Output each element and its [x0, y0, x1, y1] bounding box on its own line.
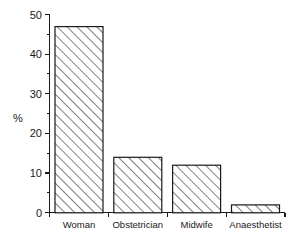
- y-tick-label-50: 50: [30, 9, 42, 21]
- x-tick-label-midwife: Midwife: [180, 219, 212, 230]
- bar-anaesthetist: [232, 205, 280, 213]
- y-axis-title: %: [13, 112, 23, 124]
- y-tick-label-10: 10: [30, 167, 42, 179]
- bar-obstetrician: [114, 157, 162, 213]
- x-tick-label-woman: Woman: [63, 219, 96, 230]
- x-tick-label-obstetrician: Obstetrician: [112, 219, 163, 230]
- y-tick-label-0: 0: [36, 207, 42, 219]
- bar-midwife: [173, 165, 221, 213]
- y-tick-label-40: 40: [30, 48, 42, 60]
- y-tick-label-20: 20: [30, 127, 42, 139]
- bar-chart-figure: 50 40 30 20 10 0 % Woman Obstetrician Mi…: [0, 0, 289, 236]
- bar-woman: [55, 27, 103, 213]
- x-tick-label-anaesthetist: Anaesthetist: [229, 219, 282, 230]
- chart-canvas: 50 40 30 20 10 0 % Woman Obstetrician Mi…: [0, 0, 289, 236]
- y-tick-label-30: 30: [30, 88, 42, 100]
